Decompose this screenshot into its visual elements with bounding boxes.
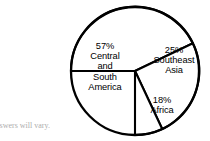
caption-note: answers will vary. — [0, 121, 72, 131]
pie-chart-graphic — [0, 0, 210, 141]
pie-chart-figure: 57% Central and South America 25% Southe… — [0, 0, 210, 141]
